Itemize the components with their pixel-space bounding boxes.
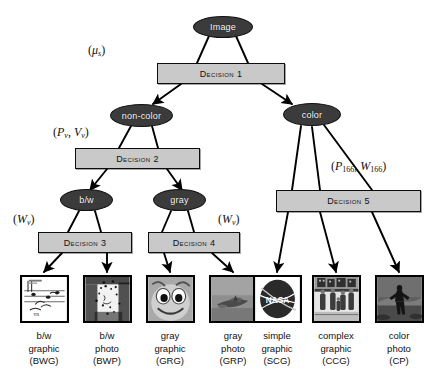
- caption-grg-line1: gray: [135, 330, 205, 343]
- caption-cp: colorphoto(CP): [364, 330, 434, 368]
- feature-sym-wv-mid: W: [222, 212, 232, 226]
- feature-label-decision-4: (Wv): [218, 212, 240, 227]
- feature-sym-wv-left: W: [17, 212, 27, 226]
- node-bw-label: b/w: [79, 195, 94, 205]
- thumbnail-simple-graphic-nasa[interactable]: NASA: [253, 275, 302, 323]
- decision-box-5[interactable]: Decision 5: [276, 190, 421, 212]
- color-photo-person-outdoors-icon: [377, 277, 422, 321]
- thumbnail-gray-graphic[interactable]: [146, 275, 195, 323]
- node-color[interactable]: color: [283, 103, 341, 126]
- feature-label-decision-2: (Pv, Vv): [53, 125, 89, 140]
- caption-cp-line1: color: [364, 330, 434, 343]
- caption-ccg-line1: complex: [301, 330, 371, 343]
- caption-cp-line2: photo: [364, 343, 434, 356]
- feature-label-decision-3: (Wv): [13, 212, 35, 227]
- complex-graphic-street-scene-icon: [314, 277, 359, 321]
- caption-ccg: complex graphic (CCG): [301, 330, 371, 368]
- decision-2-label: Decision 2: [116, 154, 159, 164]
- node-image-label: Image: [210, 22, 236, 32]
- feature-sub-p166: 166: [342, 165, 354, 174]
- caption-bwg: b/w graphic (BWG): [9, 330, 79, 368]
- decision-box-3[interactable]: Decision 3: [38, 232, 132, 253]
- node-gray-label: gray: [170, 195, 188, 205]
- node-color-label: color: [302, 110, 323, 120]
- decision-5-label: Decision 5: [327, 196, 370, 206]
- thumbnail-bw-photo[interactable]: [83, 275, 132, 323]
- caption-bwg-line2: graphic: [9, 343, 79, 356]
- feature-label-decision-5: (P166, W166): [331, 159, 386, 174]
- gray-photo-airplane-icon: [211, 277, 256, 321]
- bw-graphic-sheet-music-icon: vn: [22, 277, 67, 321]
- caption-ccg-code: (CCG): [301, 355, 371, 368]
- node-bw[interactable]: b/w: [60, 189, 113, 211]
- caption-cp-code: (CP): [364, 355, 434, 368]
- thumbnail-color-photo[interactable]: [375, 275, 424, 323]
- decision-1-label: Decision 1: [200, 69, 243, 79]
- feature-sub-w166: 166: [370, 165, 382, 174]
- caption-bwg-code: (BWG): [9, 355, 79, 368]
- node-gray[interactable]: gray: [153, 189, 206, 211]
- node-non-color[interactable]: non-color: [110, 104, 173, 127]
- caption-bwp-line1: b/w: [72, 330, 142, 343]
- caption-ccg-line2: graphic: [301, 343, 371, 356]
- decision-box-4[interactable]: Decision 4: [148, 232, 240, 253]
- caption-bwp-line2: photo: [72, 343, 142, 356]
- decision-box-1[interactable]: Decision 1: [157, 63, 285, 84]
- node-image[interactable]: Image: [193, 16, 253, 38]
- caption-grg-code: (GRG): [135, 355, 205, 368]
- caption-grg: gray graphic (GRG): [135, 330, 205, 368]
- feature-label-decision-1: (μs): [88, 43, 105, 58]
- caption-bwp: b/w photo (BWP): [72, 330, 142, 368]
- gray-graphic-cartoon-face-icon: [148, 277, 193, 321]
- thumbnail-complex-graphic-street[interactable]: [312, 275, 361, 323]
- decision-3-label: Decision 3: [64, 238, 107, 248]
- caption-grg-line2: graphic: [135, 343, 205, 356]
- svg-text:NASA: NASA: [266, 296, 289, 305]
- thumbnail-bw-graphic[interactable]: vn: [20, 275, 69, 323]
- simple-graphic-nasa-logo-icon: NASA: [255, 277, 300, 321]
- feature-sym-w166: W: [360, 159, 370, 173]
- thumbnail-gray-photo[interactable]: [209, 275, 258, 323]
- decision-4-label: Decision 4: [173, 238, 216, 248]
- bw-photo-halftone-face-icon: [85, 277, 130, 321]
- decision-tree-figure: Image non-color color b/w gray Decision …: [0, 0, 438, 389]
- node-non-color-label: non-color: [122, 111, 161, 121]
- caption-bwp-code: (BWP): [72, 355, 142, 368]
- caption-bwg-line1: b/w: [9, 330, 79, 343]
- svg-text:vn: vn: [34, 311, 40, 317]
- decision-box-2[interactable]: Decision 2: [75, 148, 200, 169]
